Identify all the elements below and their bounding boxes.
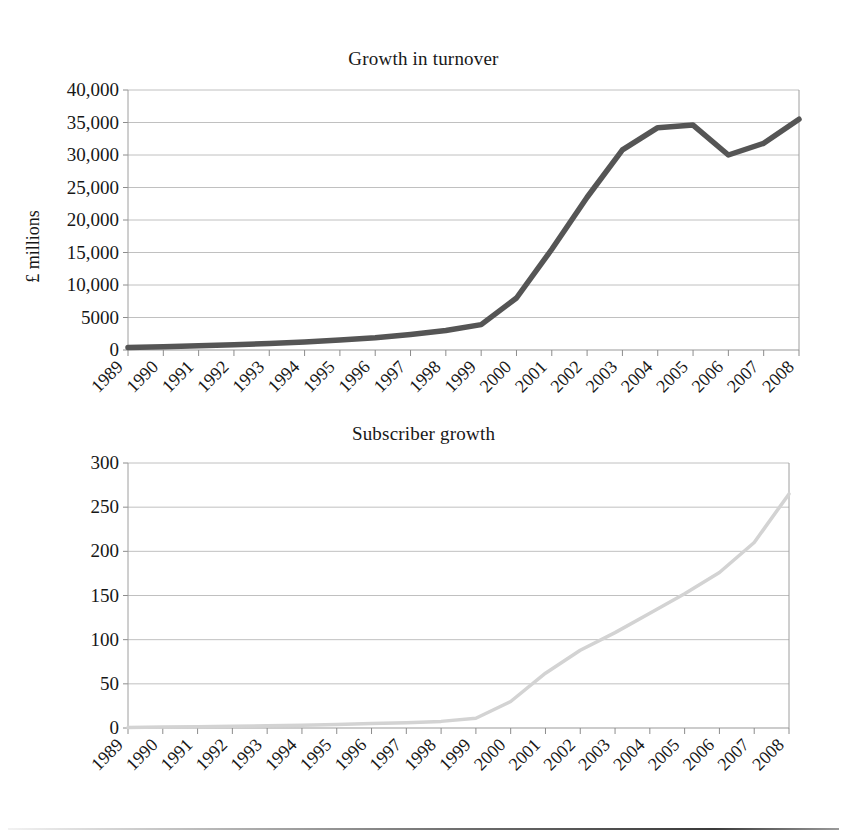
x-tick-label: 1995 (296, 735, 336, 775)
x-tick-label: 2008 (758, 357, 798, 397)
x-tick-label: 2002 (546, 357, 586, 397)
y-tick-label: 250 (91, 496, 120, 517)
x-tick-label: 2005 (652, 357, 692, 397)
plot-area-subscribers: 0501001502002503001989199019911992199319… (0, 415, 847, 805)
x-tick-label: 1992 (192, 735, 232, 775)
y-tick-label: 200 (91, 540, 120, 561)
y-tick-label: 50 (100, 673, 119, 694)
x-tick-label: 2007 (723, 357, 763, 397)
x-tick-label: 1999 (435, 735, 475, 775)
x-tick-label: 1998 (400, 735, 440, 775)
x-tick-label: 1990 (122, 735, 162, 775)
x-tick-label: 1989 (87, 735, 127, 775)
turnover-plot-svg: 0500010,00015,00020,00025,00030,00035,00… (0, 40, 847, 425)
y-tick-label: 0 (110, 339, 120, 360)
y-tick-label: 35,000 (67, 112, 119, 133)
x-tick-label: 1998 (405, 357, 445, 397)
x-tick-label: 2007 (713, 735, 753, 775)
x-tick-label: 1993 (228, 357, 268, 397)
y-tick-label: 10,000 (67, 274, 119, 295)
x-tick-label: 2005 (644, 735, 684, 775)
x-tick-label: 2003 (582, 357, 622, 397)
x-tick-label: 1993 (226, 735, 266, 775)
data-line (128, 494, 789, 728)
x-tick-label: 2002 (539, 735, 579, 775)
x-tick-label: 1996 (331, 735, 371, 775)
y-tick-label: 300 (91, 452, 120, 473)
y-tick-label: 20,000 (67, 209, 119, 230)
x-tick-label: 1991 (157, 735, 197, 775)
x-tick-label: 2001 (505, 735, 545, 775)
subscribers-plot-svg: 0501001502002503001989199019911992199319… (0, 415, 847, 805)
x-tick-label: 2003 (574, 735, 614, 775)
x-tick-label: 2000 (476, 357, 516, 397)
y-tick-label: 30,000 (67, 144, 119, 165)
y-tick-label: 150 (91, 585, 120, 606)
y-tick-label: 0 (110, 717, 120, 738)
data-line (128, 119, 799, 347)
x-tick-label: 1997 (370, 357, 410, 397)
x-tick-label: 2001 (511, 357, 551, 397)
y-tick-label: 15,000 (67, 242, 119, 263)
x-tick-label: 1994 (264, 357, 304, 397)
plot-area-turnover: 0500010,00015,00020,00025,00030,00035,00… (0, 40, 847, 425)
x-tick-label: 1995 (299, 357, 339, 397)
x-tick-label: 2006 (679, 735, 719, 775)
chart-subscriber-growth: Subscriber growth 0501001502002503001989… (0, 415, 847, 805)
x-tick-label: 1996 (334, 357, 374, 397)
x-tick-label: 2006 (688, 357, 728, 397)
y-tick-label: 100 (91, 629, 120, 650)
x-tick-label: 1991 (158, 357, 198, 397)
figure-page: Growth in turnover 0500010,00015,00020,0… (0, 0, 847, 836)
x-tick-label: 1992 (193, 357, 233, 397)
y-axis-title-turnover: £ millions (23, 187, 44, 307)
x-tick-label: 1997 (366, 735, 406, 775)
x-tick-label: 2004 (609, 735, 649, 775)
x-tick-label: 1989 (87, 357, 127, 397)
y-tick-label: 40,000 (67, 79, 119, 100)
y-tick-label: 25,000 (67, 177, 119, 198)
x-tick-label: 1994 (261, 735, 301, 775)
x-tick-label: 2000 (470, 735, 510, 775)
y-tick-label: 5000 (81, 307, 119, 328)
x-tick-label: 1999 (440, 357, 480, 397)
x-tick-label: 1990 (123, 357, 163, 397)
x-tick-label: 2004 (617, 357, 657, 397)
chart-growth-in-turnover: Growth in turnover 0500010,00015,00020,0… (0, 40, 847, 425)
page-bottom-rule (8, 828, 839, 830)
x-tick-label: 2008 (748, 735, 788, 775)
